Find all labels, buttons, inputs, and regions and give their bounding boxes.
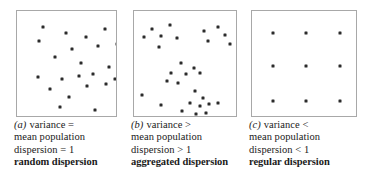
dispersion-figure: (a)variance =mean populationdispersion =… [0,0,370,186]
data-point [272,32,275,35]
data-point [339,32,342,35]
data-point [339,100,342,103]
data-point [272,100,275,103]
data-point [305,65,308,68]
data-point [272,65,275,68]
scatter-plot-box [251,10,357,117]
data-point [305,32,308,35]
panel-c: (c)variance <mean populationdispersion <… [0,0,370,186]
caption-text: variance < [264,119,309,130]
panel-bold-label: regular dispersion [249,156,330,168]
data-point [305,100,308,103]
caption-line: dispersion < 1 [249,144,330,156]
panel-caption: (c)variance <mean populationdispersion <… [249,119,330,169]
caption-line: mean population [249,131,330,143]
data-point [339,65,342,68]
panel-letter: (c) [249,119,261,130]
caption-line: (c)variance < [249,119,330,131]
